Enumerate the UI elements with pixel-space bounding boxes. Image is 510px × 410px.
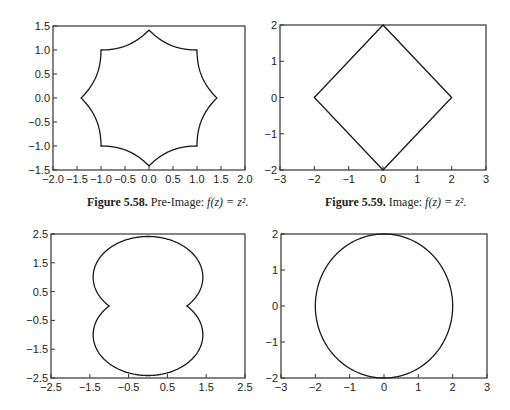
plot-peanut-curve: −2.5−1.5−0.50.51.52.52.51.50.5−0.5−1.5−2… [26, 228, 252, 393]
x-tick-label: 1 [414, 173, 420, 185]
x-tick-label: 1.0 [189, 173, 204, 185]
x-tick-label: −1.5 [66, 173, 88, 185]
caption-label: Figure 5.59. [325, 195, 386, 209]
x-tick-label: 1.5 [213, 173, 228, 185]
plot-frame [281, 234, 487, 378]
x-tick-label: 0.5 [165, 173, 180, 185]
plot-circle: −3−2−10123210−1−2 [265, 228, 490, 393]
y-tick-label: −0.5 [28, 116, 50, 128]
curve-line [315, 234, 452, 378]
caption-formula: f(z) = z². [425, 195, 466, 209]
x-tick-label: −1 [343, 381, 356, 393]
y-tick-label: 0 [271, 92, 277, 104]
y-tick-label: 0.5 [35, 68, 50, 80]
y-tick-label: 1.5 [33, 257, 48, 269]
plot-fig-5-58: −2.0−1.5−1.0−0.50.00.51.01.52.01.51.00.5… [28, 20, 252, 185]
x-tick-label: −1.0 [90, 173, 112, 185]
x-tick-label: −1.5 [79, 381, 101, 393]
x-tick-label: −1 [342, 173, 355, 185]
curve-line [93, 236, 203, 375]
curve-line [81, 30, 217, 166]
y-tick-label: −2 [264, 164, 277, 176]
x-tick-label: 2.0 [237, 173, 252, 185]
x-tick-label: 3 [483, 173, 489, 185]
y-tick-label: 0 [272, 300, 278, 312]
x-tick-label: 2 [450, 381, 456, 393]
x-tick-label: 0.0 [141, 173, 156, 185]
x-tick-label: 3 [484, 381, 490, 393]
y-tick-label: −1 [265, 336, 278, 348]
y-tick-label: −1 [264, 128, 277, 140]
y-tick-label: −0.5 [26, 314, 48, 326]
plot-fig-5-59: −3−2−10123210−1−2 [264, 19, 489, 185]
caption-fig-5-58: Figure 5.58. Pre-Image: f(z) = z². [87, 195, 248, 210]
y-tick-label: −2.5 [26, 372, 48, 384]
caption-text: Pre-Image: [151, 195, 207, 209]
y-tick-label: 2.5 [33, 228, 48, 240]
y-tick-label: −1.5 [26, 343, 48, 355]
x-tick-label: 2 [449, 173, 455, 185]
x-tick-label: 0 [381, 381, 387, 393]
x-tick-label: −0.5 [118, 381, 140, 393]
caption-text: Image: [389, 195, 425, 209]
caption-label: Figure 5.58. [87, 195, 148, 209]
y-tick-label: 2 [271, 19, 277, 31]
plot-frame [280, 25, 486, 170]
y-tick-label: 0.5 [33, 286, 48, 298]
y-tick-label: −1.5 [28, 164, 50, 176]
y-tick-label: 1 [272, 264, 278, 276]
x-tick-label: 0.5 [160, 381, 175, 393]
x-tick-label: −0.5 [114, 173, 136, 185]
caption-formula: f(z) = z². [207, 195, 248, 209]
x-tick-label: 1.5 [199, 381, 214, 393]
x-tick-label: −2 [309, 381, 322, 393]
y-tick-label: 2 [272, 228, 278, 240]
x-tick-label: 2.5 [237, 381, 252, 393]
y-tick-label: 1.0 [35, 44, 50, 56]
y-tick-label: 0.0 [35, 92, 50, 104]
y-tick-label: −1.0 [28, 140, 50, 152]
x-tick-label: 1 [415, 381, 421, 393]
plot-frame [51, 234, 245, 378]
curve-line [314, 25, 451, 170]
y-tick-label: 1 [271, 55, 277, 67]
caption-fig-5-59: Figure 5.59. Image: f(z) = z². [325, 195, 466, 210]
x-tick-label: −2 [308, 173, 321, 185]
x-tick-label: 0 [380, 173, 386, 185]
y-tick-label: 1.5 [35, 20, 50, 32]
y-tick-label: −2 [265, 372, 278, 384]
